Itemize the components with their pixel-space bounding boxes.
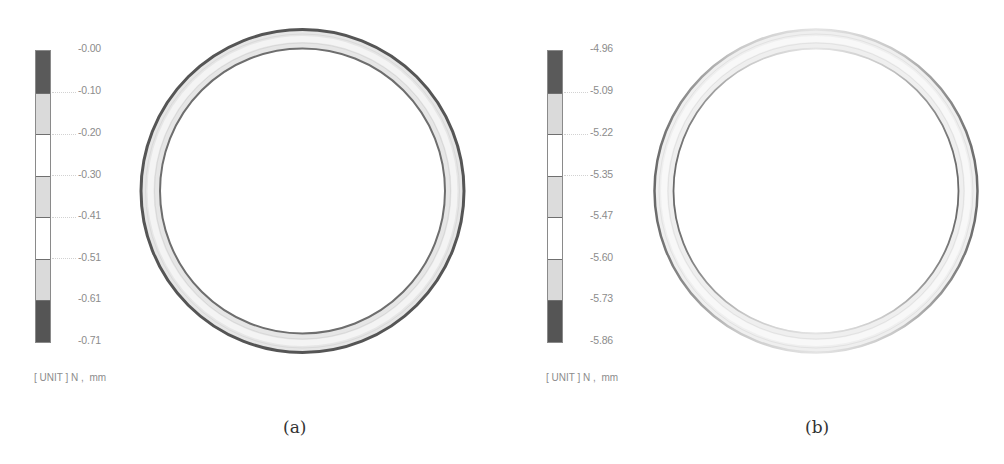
- panel-b: -4.96 -5.09 -5.22 -5.35 -5.47 -5.60 -5.7…: [502, 0, 1004, 464]
- ring-contour-b: [502, 0, 1004, 464]
- subfigure-caption-a: (a): [283, 417, 306, 437]
- subfigure-caption-b: (b): [805, 417, 829, 437]
- ring-contour-a: [0, 0, 502, 464]
- panel-a: -0.00 -0.10 -0.20 -0.30 -0.41 -0.51 -0.6…: [0, 0, 502, 464]
